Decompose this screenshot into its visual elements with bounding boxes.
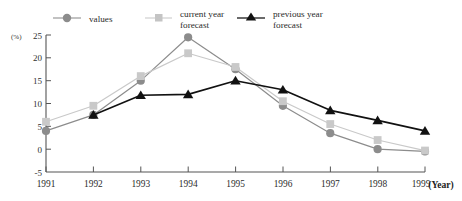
data-point-current-year-forecast-1993[interactable] (137, 72, 145, 80)
y-axis-ticks: 25 20 15 10 5 0 -5 (33, 31, 51, 178)
legend-label-previous-year-forecast-line2: forecast (273, 20, 303, 30)
legend-marker-square-icon (155, 14, 163, 22)
legend-item-current-year-forecast[interactable]: current year forecast (145, 9, 224, 30)
legend-label-previous-year-forecast-line1: previous year (273, 9, 323, 19)
y-tick-label-10: 10 (33, 99, 43, 109)
x-tick-label-1998: 1998 (368, 179, 387, 189)
y-axis: (%) 25 20 15 10 5 0 -5 (11, 31, 51, 178)
data-point-values-1994[interactable] (184, 33, 192, 41)
x-tick-label-1996: 1996 (274, 179, 293, 189)
series-layer (42, 33, 430, 155)
data-point-previous-year-forecast-1995[interactable] (230, 76, 240, 85)
data-point-previous-year-forecast-1997[interactable] (325, 106, 335, 115)
chart-legend: values current year forecast previous ye… (53, 9, 323, 30)
data-point-values-1991[interactable] (42, 127, 50, 135)
data-point-current-year-forecast-1995[interactable] (232, 63, 240, 71)
x-tick-label-1997: 1997 (321, 179, 340, 189)
x-axis-tick-labels: 1991 1992 1993 1994 1995 1996 1997 1998 … (37, 179, 431, 189)
y-axis-unit-label: (%) (11, 33, 22, 41)
data-point-current-year-forecast-1994[interactable] (184, 49, 192, 57)
x-axis: 1991 1992 1993 1994 1995 1996 1997 1998 … (37, 167, 454, 191)
x-axis-ticks (46, 167, 425, 173)
y-tick-label-5: 5 (38, 122, 43, 132)
y-tick-label-0: 0 (38, 145, 43, 155)
legend-label-values: values (89, 14, 113, 24)
legend-marker-triangle-icon (246, 12, 256, 20)
data-point-current-year-forecast-1999[interactable] (421, 147, 429, 155)
legend-item-previous-year-forecast[interactable]: previous year forecast (237, 9, 323, 30)
legend-label-current-year-forecast-line1: current year (180, 9, 224, 19)
x-tick-label-1994: 1994 (179, 179, 198, 189)
legend-item-values[interactable]: values (53, 14, 113, 24)
data-point-current-year-forecast-1998[interactable] (374, 136, 382, 144)
data-point-values-1997[interactable] (326, 129, 334, 137)
legend-label-current-year-forecast-line2: forecast (180, 20, 210, 30)
series-previous-year-forecast (88, 76, 430, 135)
x-tick-label-1993: 1993 (131, 179, 150, 189)
chart-canvas: values current year forecast previous ye… (0, 0, 462, 201)
y-tick-label-20: 20 (33, 53, 43, 63)
data-point-current-year-forecast-1997[interactable] (326, 120, 334, 128)
line-chart: values current year forecast previous ye… (0, 0, 462, 201)
x-tick-label-1991: 1991 (37, 179, 56, 189)
x-tick-label-1995: 1995 (226, 179, 245, 189)
y-tick-label-minus5: -5 (35, 168, 43, 178)
data-point-current-year-forecast-1996[interactable] (279, 97, 287, 105)
y-tick-label-15: 15 (33, 76, 43, 86)
x-axis-label: (Year) (428, 179, 454, 191)
data-point-current-year-forecast-1992[interactable] (89, 102, 97, 110)
y-tick-label-25: 25 (33, 31, 43, 41)
data-point-values-1998[interactable] (374, 145, 382, 153)
series-line-values (46, 37, 425, 151)
data-point-current-year-forecast-1991[interactable] (42, 118, 50, 126)
x-tick-label-1992: 1992 (84, 179, 103, 189)
legend-marker-circle-icon (63, 14, 71, 22)
series-current-year-forecast (42, 49, 429, 154)
